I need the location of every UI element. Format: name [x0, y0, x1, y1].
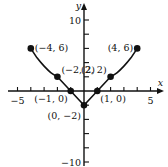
point-label: (0, −2)	[47, 110, 81, 121]
x-axis-arrow	[157, 88, 164, 94]
y-axis-arrow	[81, 3, 87, 10]
x-tick-label: 5	[147, 95, 153, 106]
data-point	[81, 102, 88, 109]
data-point	[67, 88, 74, 95]
graph-plot: xy−5510−10(−4, 6)(4, 6)(−2, 2)(2, 2)(−1,…	[0, 0, 168, 166]
x-axis-label: x	[158, 77, 164, 88]
data-point	[54, 74, 61, 81]
data-point	[107, 74, 114, 81]
x-tick-label: −5	[10, 95, 24, 106]
point-label: (1, 0)	[100, 93, 126, 104]
y-tick-label: −10	[61, 157, 81, 167]
point-label: (4, 6)	[108, 42, 134, 53]
axes	[8, 3, 164, 166]
y-axis-label: y	[75, 0, 82, 11]
point-label: (2, 2)	[81, 64, 107, 75]
data-point	[134, 45, 141, 52]
point-label: (−1, 0)	[34, 93, 68, 104]
point-label: (−4, 6)	[35, 42, 69, 53]
y-tick-label: 10	[69, 15, 81, 26]
data-point	[28, 45, 35, 52]
labels: xy−5510−10(−4, 6)(4, 6)(−2, 2)(2, 2)(−1,…	[10, 0, 163, 166]
